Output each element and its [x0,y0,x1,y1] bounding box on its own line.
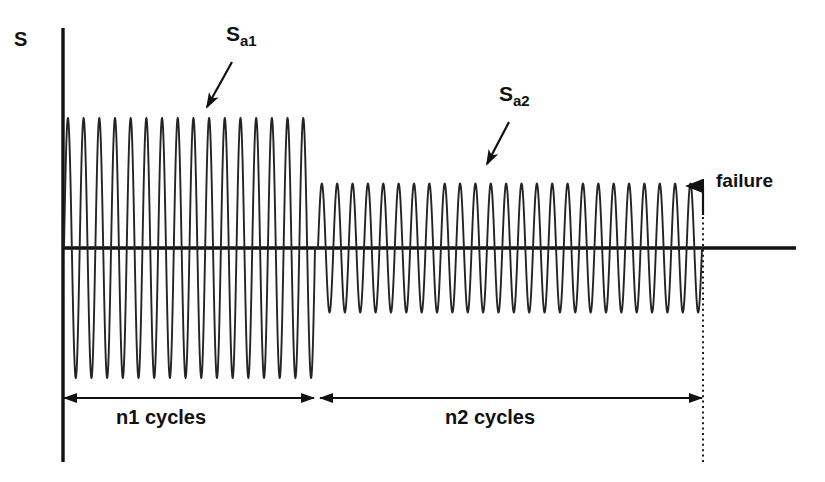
amplitude-1-symbol: S [226,22,240,45]
amplitude-2-label: Sa2 [499,82,530,109]
n1-cycles-label: n1 cycles [116,406,206,429]
n2-cycles-label: n2 cycles [445,406,535,429]
fatigue-loading-figure: S Sa1 Sa2 failure n1 cycles n2 cycles [0,0,825,482]
failure-label: failure [716,170,773,192]
amplitude-2-callout-arrow [487,122,509,164]
amplitude-1-callout-arrow [207,62,232,107]
amplitude-2-symbol: S [499,82,513,105]
amplitude-2-subscript: a2 [513,92,530,109]
amplitude-1-subscript: a1 [240,32,257,49]
amplitude-1-label: Sa1 [226,22,257,49]
y-axis-label: S [14,28,28,51]
